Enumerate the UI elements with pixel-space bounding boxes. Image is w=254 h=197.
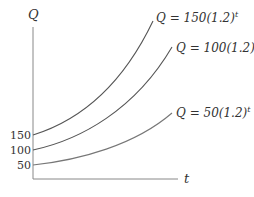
y-tick-50: 50: [17, 159, 31, 172]
y-tick-100: 100: [10, 144, 31, 157]
curve-50-label: Q = 50(1.2)t: [176, 105, 251, 120]
exponential-growth-chart: Q t 150 100 50 Q = 150(1.2)t Q = 100(1.2…: [0, 0, 254, 197]
x-axis-label: t: [184, 171, 190, 186]
y-tick-150: 150: [10, 129, 31, 142]
curve-150-label: Q = 150(1.2)t: [156, 10, 239, 25]
y-axis-label: Q: [28, 7, 39, 22]
curve-150: [33, 21, 153, 135]
curve-100: [33, 47, 172, 150]
curve-100-label: Q = 100(1.2)t: [176, 40, 254, 55]
